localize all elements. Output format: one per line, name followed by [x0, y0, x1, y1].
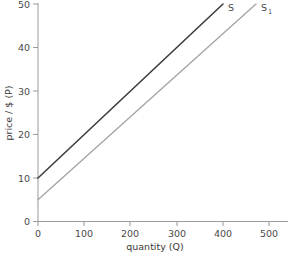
x-tick-label-100: 100 — [75, 228, 93, 239]
y-axis-title: price / $ (P) — [3, 85, 14, 140]
x-tick-label-500: 500 — [260, 228, 278, 239]
x-tick-label-200: 200 — [121, 228, 139, 239]
x-tick-label-0: 0 — [35, 228, 41, 239]
y-axis-ticks — [33, 4, 38, 222]
y-tick-label-50: 50 — [18, 0, 30, 10]
supply-curve-chart: 0 10 20 30 40 50 0 100 200 300 400 500 — [0, 0, 294, 254]
y-tick-label-40: 40 — [18, 42, 30, 53]
y-tick-label-20: 20 — [18, 129, 30, 140]
series-annotation-s1-base: S — [261, 2, 267, 13]
series-annotation-s1: S 1 — [261, 2, 272, 16]
y-axis-tick-labels: 0 10 20 30 40 50 — [18, 0, 30, 227]
series-annotation-s1-subscript: 1 — [268, 8, 272, 16]
series-line-s1 — [38, 4, 256, 200]
x-tick-label-400: 400 — [214, 228, 232, 239]
x-axis-title: quantity (Q) — [126, 241, 184, 252]
x-axis-ticks — [38, 222, 269, 227]
y-tick-label-0: 0 — [24, 216, 30, 227]
y-tick-label-10: 10 — [18, 173, 30, 184]
y-tick-label-30: 30 — [18, 86, 30, 97]
series-annotation-s: S — [228, 2, 234, 13]
x-axis-tick-labels: 0 100 200 300 400 500 — [35, 228, 278, 239]
chart-canvas: 0 10 20 30 40 50 0 100 200 300 400 500 — [0, 0, 294, 254]
series-line-s — [38, 4, 223, 178]
x-tick-label-300: 300 — [168, 228, 186, 239]
